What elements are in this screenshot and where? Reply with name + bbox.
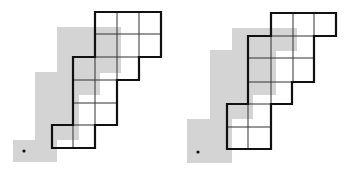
left-origin-dot — [22, 149, 25, 152]
right-shadow-region — [187, 28, 297, 163]
shadow-block — [187, 119, 232, 163]
shadow-block — [210, 95, 253, 119]
shadow-block — [13, 140, 57, 162]
left-shadow-region — [13, 27, 121, 162]
left-figure — [13, 12, 161, 162]
shadow-block — [210, 50, 276, 95]
shadow-block — [35, 72, 100, 95]
staircase-grid-diagram — [0, 0, 349, 170]
right-figure — [187, 13, 336, 163]
right-origin-dot — [196, 150, 199, 153]
shadow-block — [232, 28, 297, 51]
